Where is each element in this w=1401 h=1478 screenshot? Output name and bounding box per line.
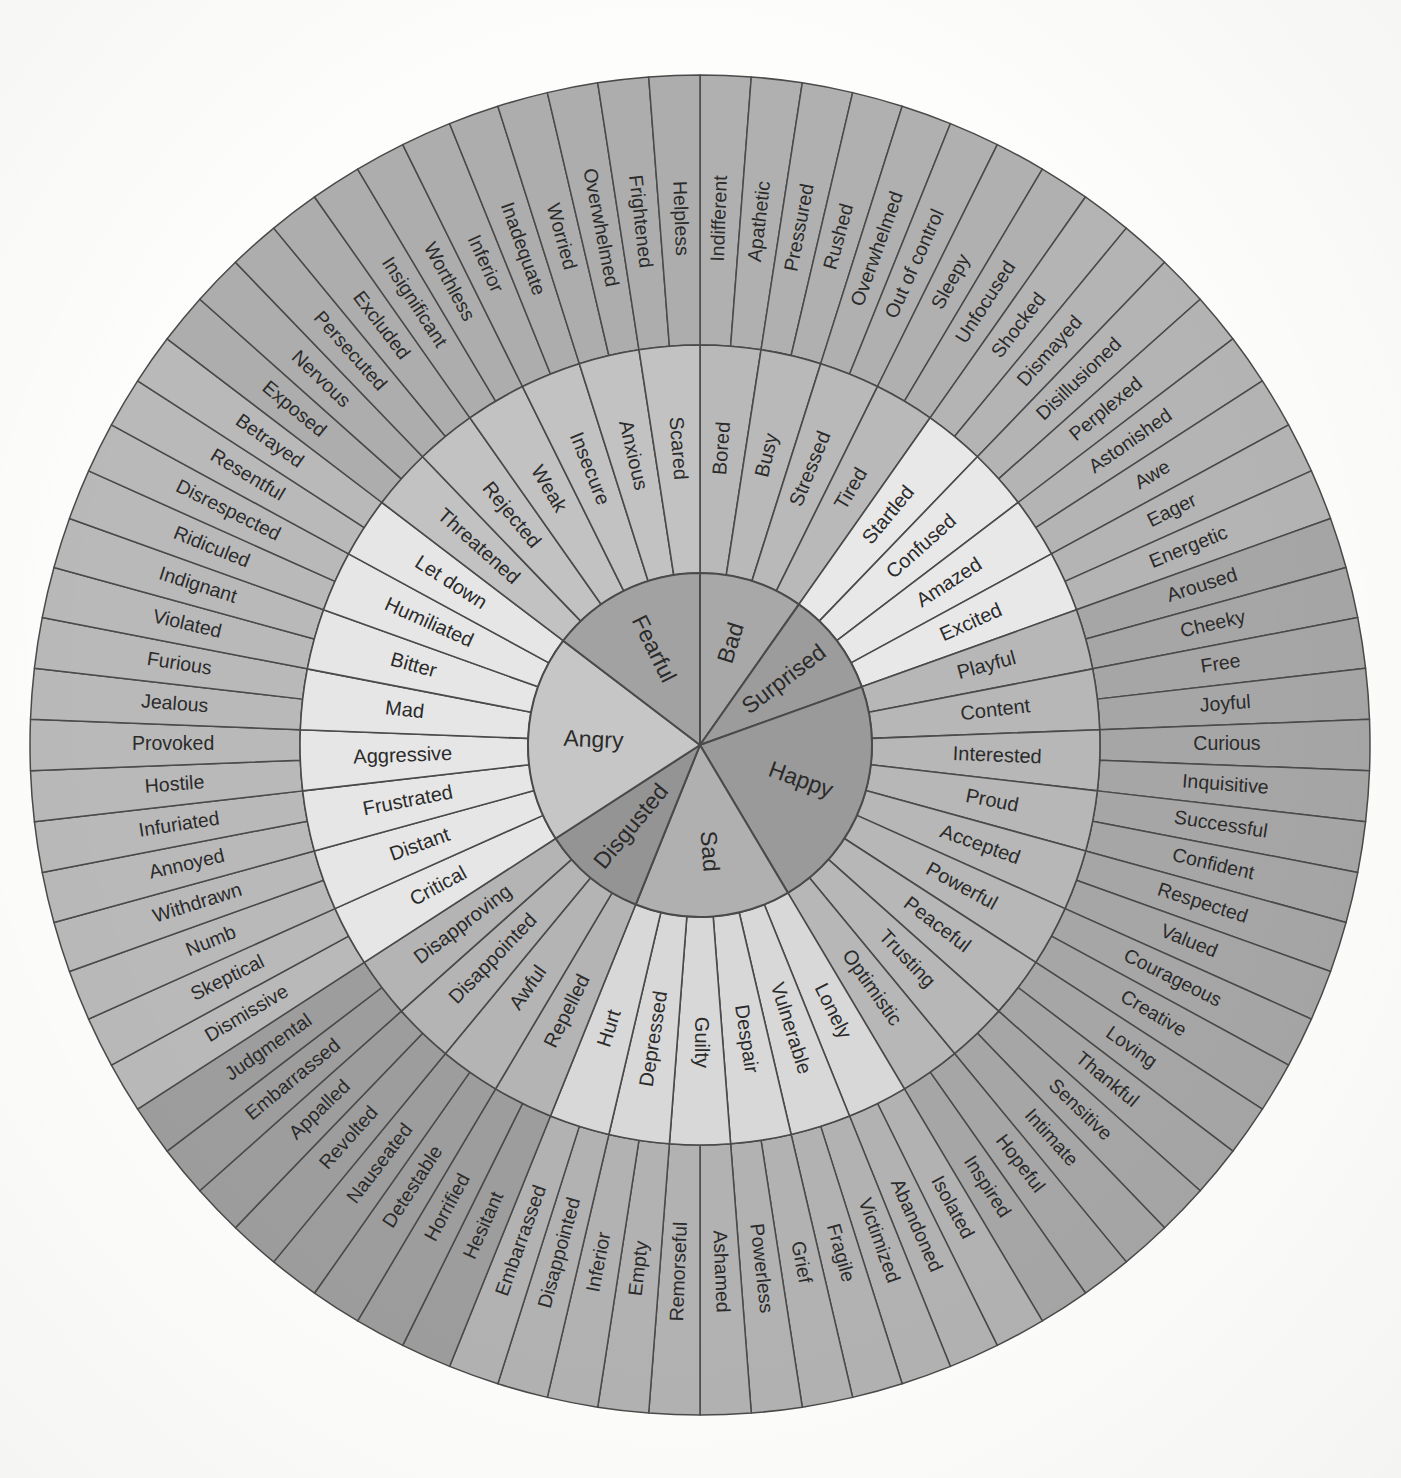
tertiary-emotion-label-provoked: Provoked	[132, 732, 214, 754]
core-emotion-label-sad: Sad	[696, 830, 725, 873]
emotion-wheel-svg: IndifferentApatheticPressuredRushedOverw…	[0, 0, 1401, 1478]
secondary-emotion-label-interested: Interested	[952, 742, 1042, 767]
tertiary-emotion-label-ashamed: Ashamed	[709, 1230, 734, 1313]
emotion-wheel-container: IndifferentApatheticPressuredRushedOverw…	[0, 0, 1401, 1478]
secondary-emotion-label-guilty: Guilty	[691, 1017, 713, 1068]
tertiary-emotion-label-indifferent: Indifferent	[706, 174, 731, 262]
core-emotion-label-angry: Angry	[563, 725, 625, 753]
secondary-emotion-label-aggressive: Aggressive	[353, 742, 453, 768]
tertiary-emotion-label-remorseful: Remorseful	[665, 1221, 691, 1321]
tertiary-emotion-label-helpless: Helpless	[669, 181, 694, 257]
tertiary-emotion-label-curious: Curious	[1193, 732, 1260, 754]
tertiary-emotion-label-joyful: Joyful	[1199, 690, 1251, 716]
secondary-emotion-label-mad: Mad	[384, 696, 425, 722]
secondary-emotion-label-bored: Bored	[708, 421, 734, 476]
tertiary-emotion-label-hostile: Hostile	[144, 770, 205, 796]
